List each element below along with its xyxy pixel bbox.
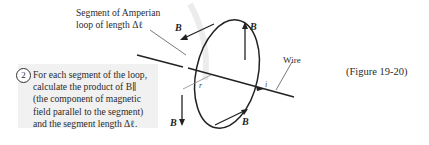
field-label-upper-left: B [174,22,182,33]
field-label-lower-left: B [169,117,177,128]
step-line: calculate the product of B∥ [33,81,168,93]
step-line: For each segment of the loop, [33,69,168,81]
step-instruction: 2 For each segment of the loop, calculat… [18,69,168,130]
step-number-badge: 2 [16,68,31,83]
field-label-upper-right: B [249,21,257,32]
radius-label: r [199,81,203,90]
step-line: (the component of magnetic [33,93,168,105]
callout-label: Segment of Amperian loop of length Δℓ [76,7,160,30]
wire-label: Wire [283,55,301,65]
step-line: field parallel to the segment) [33,106,168,118]
callout-line-1: Segment of Amperian [76,7,160,19]
figure-reference: (Figure 19-20) [346,66,408,77]
callout-line-2: loop of length Δℓ [76,19,160,31]
current-label: i [265,80,267,89]
field-label-lower-right: B [241,116,249,127]
step-line: and the segment length Δℓ. [33,118,168,130]
